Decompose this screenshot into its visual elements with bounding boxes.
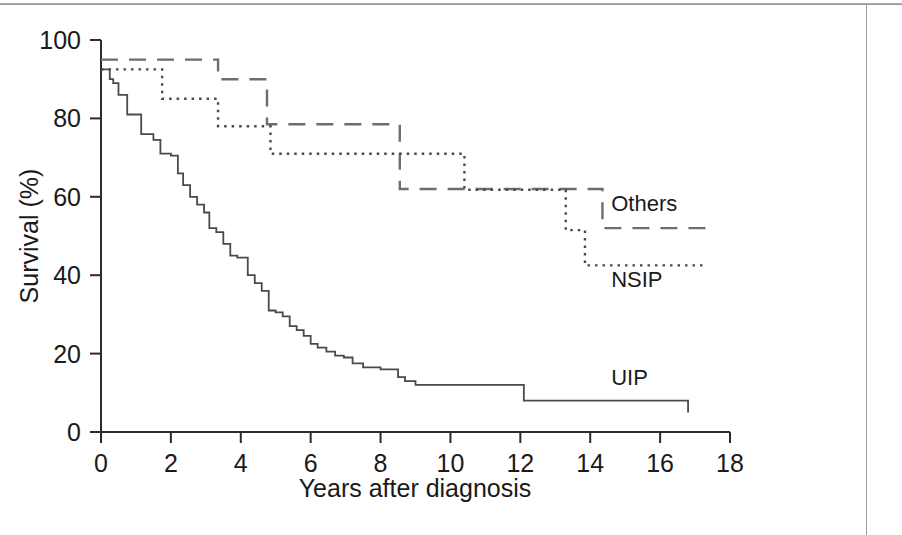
y-axis-title: Survival (%)	[15, 169, 43, 304]
x-tick-label-4: 4	[234, 449, 248, 477]
x-tick-label-12: 12	[506, 449, 534, 477]
series-label-others: Others	[611, 191, 677, 216]
series-line-uip	[101, 69, 688, 412]
survival-chart: 024681012141618 020406080100 OthersNSIPU…	[0, 0, 902, 535]
x-tick-label-0: 0	[94, 449, 108, 477]
x-axis-tick-labels: 024681012141618	[94, 449, 744, 477]
x-tick-label-8: 8	[374, 449, 388, 477]
x-tick-label-16: 16	[646, 449, 674, 477]
x-tick-label-18: 18	[716, 449, 744, 477]
y-tick-label-20: 20	[53, 340, 81, 368]
figure-root: 024681012141618 020406080100 OthersNSIPU…	[0, 0, 902, 535]
y-tick-label-100: 100	[39, 26, 81, 54]
y-tick-label-60: 60	[53, 183, 81, 211]
series-label-uip: UIP	[611, 365, 648, 390]
y-axis-tick-labels: 020406080100	[39, 26, 81, 446]
series-label-group: OthersNSIPUIP	[611, 191, 677, 390]
x-axis-ticks	[101, 432, 730, 443]
series-label-nsip: NSIP	[611, 267, 662, 292]
x-tick-label-6: 6	[304, 449, 318, 477]
series-line-nsip	[101, 69, 706, 265]
x-tick-label-2: 2	[164, 449, 178, 477]
y-tick-label-40: 40	[53, 261, 81, 289]
x-tick-label-10: 10	[437, 449, 465, 477]
y-tick-label-0: 0	[67, 418, 81, 446]
y-tick-label-80: 80	[53, 104, 81, 132]
figure-caption	[30, 516, 33, 528]
x-tick-label-14: 14	[576, 449, 604, 477]
x-axis-title: Years after diagnosis	[299, 474, 532, 502]
chart-series-group	[101, 60, 709, 413]
y-axis-ticks	[90, 40, 101, 432]
